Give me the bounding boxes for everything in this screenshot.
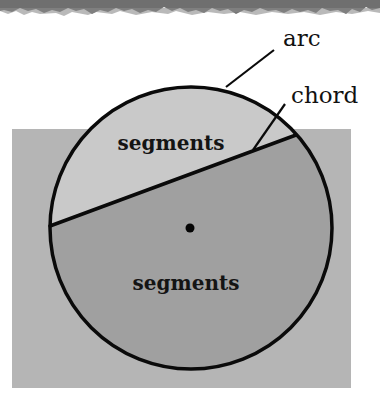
center-point xyxy=(186,224,195,233)
arc-label: arc xyxy=(283,25,321,51)
upper-segment-label: segments xyxy=(118,131,225,155)
torn-paper-edge xyxy=(0,0,380,16)
lower-segment-label: segments xyxy=(133,271,240,295)
circle-segments-diagram: arc chord segments segments xyxy=(0,0,380,413)
arc-leader-line xyxy=(226,50,274,87)
chord-label: chord xyxy=(291,82,359,108)
